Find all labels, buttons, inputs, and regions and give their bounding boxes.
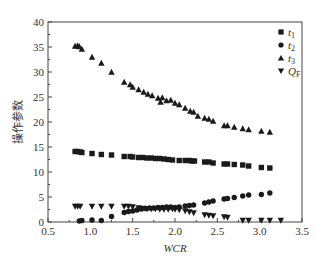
y-tick-label: 40 xyxy=(33,16,45,28)
y-tick-label: 10 xyxy=(33,166,45,178)
y-tick-label: 25 xyxy=(33,91,45,103)
legend-label: t2 xyxy=(288,39,295,53)
x-axis-label: WCR xyxy=(163,242,187,254)
x-tick-label: 3.0 xyxy=(253,225,267,237)
series-t3 xyxy=(72,42,273,134)
legend-item-t2: t2 xyxy=(278,39,295,53)
x-tick-label: 2.0 xyxy=(168,225,182,237)
x-tick-label: 1.5 xyxy=(126,225,140,237)
y-tick-label: 30 xyxy=(33,66,45,78)
y-tick-label: 0 xyxy=(39,216,45,228)
plot-frame xyxy=(48,22,302,222)
x-tick-label: 2.5 xyxy=(210,225,224,237)
y-tick-label: 15 xyxy=(33,141,45,153)
y-tick-label: 20 xyxy=(33,116,45,128)
data-points xyxy=(72,42,284,223)
legend-item-t3: t3 xyxy=(278,52,295,66)
x-tick-label: 1.0 xyxy=(83,225,97,237)
legend-item-t1: t1 xyxy=(278,26,295,40)
x-tick-label: 3.5 xyxy=(295,225,309,237)
y-tick-label: 35 xyxy=(33,41,45,53)
legend-label: QF xyxy=(288,65,301,79)
y-tick-label: 5 xyxy=(39,191,45,203)
legend-item-QF: QF xyxy=(278,65,301,79)
y-axis-label: 操作参数 xyxy=(11,100,25,144)
series-t1 xyxy=(72,149,272,171)
legend-label: t3 xyxy=(288,52,295,66)
legend: t1t2t3QF xyxy=(278,26,301,79)
chart-canvas: 0.51.01.52.02.53.03.50510152025303540 t1… xyxy=(0,0,325,259)
legend-label: t1 xyxy=(288,26,295,40)
